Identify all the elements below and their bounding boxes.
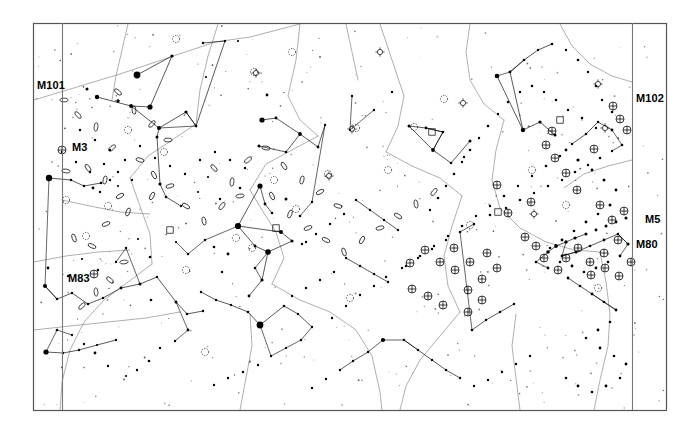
faint-star — [70, 97, 71, 98]
faint-star — [310, 66, 311, 67]
faint-star — [220, 94, 222, 96]
star — [383, 219, 385, 221]
globular-cluster-symbol — [623, 126, 631, 134]
star — [329, 223, 331, 225]
globular-cluster-symbol — [464, 286, 472, 294]
globular-cluster-symbol — [90, 270, 98, 278]
star — [46, 175, 52, 181]
star — [86, 88, 89, 91]
star — [43, 284, 47, 288]
faint-star — [579, 168, 581, 170]
star — [373, 109, 375, 111]
star — [513, 303, 515, 305]
star — [213, 384, 215, 386]
star — [469, 140, 472, 143]
star — [585, 221, 588, 224]
star — [509, 71, 512, 74]
faint-star — [544, 79, 545, 80]
star — [265, 249, 271, 255]
faint-star — [234, 374, 235, 375]
star — [92, 187, 95, 190]
star — [94, 352, 97, 355]
faint-star — [646, 269, 648, 271]
star — [373, 273, 375, 275]
faint-star — [438, 312, 439, 313]
faint-star — [424, 306, 425, 307]
star — [285, 347, 287, 349]
faint-star — [249, 248, 251, 250]
faint-star — [214, 253, 215, 254]
faint-star — [491, 66, 492, 67]
star — [535, 261, 538, 264]
star — [199, 159, 201, 161]
globular-cluster-symbol — [586, 258, 594, 266]
faint-star — [144, 357, 146, 359]
faint-star — [432, 119, 434, 121]
faint-star — [67, 339, 68, 340]
star — [81, 258, 83, 260]
star — [373, 285, 375, 287]
star — [621, 144, 624, 147]
faint-star — [355, 74, 356, 75]
star — [298, 132, 302, 136]
star — [239, 187, 242, 190]
star — [351, 95, 353, 97]
faint-star — [541, 66, 543, 68]
faint-star — [162, 256, 163, 257]
star — [100, 182, 103, 185]
faint-star — [459, 349, 460, 350]
faint-star — [529, 67, 531, 69]
faint-star — [199, 198, 200, 199]
faint-star — [539, 132, 540, 133]
faint-star — [358, 134, 359, 135]
globular-cluster-symbol — [424, 292, 432, 300]
faint-star — [597, 258, 599, 260]
faint-star — [319, 56, 321, 58]
faint-star — [123, 379, 125, 381]
faint-star — [387, 155, 388, 156]
faint-star — [379, 190, 381, 192]
faint-star — [634, 269, 635, 270]
star — [244, 167, 246, 169]
globular-cluster-symbol — [554, 266, 562, 274]
faint-star — [191, 380, 192, 381]
star — [147, 104, 152, 109]
star — [473, 385, 475, 387]
faint-star — [101, 260, 102, 261]
star — [97, 269, 99, 271]
star — [264, 203, 267, 206]
star — [79, 129, 81, 131]
faint-star — [662, 159, 663, 160]
star — [538, 120, 541, 123]
faint-star — [526, 386, 528, 388]
faint-star — [547, 347, 549, 349]
faint-star — [107, 299, 109, 301]
faint-star — [110, 264, 111, 265]
faint-star — [629, 86, 631, 88]
star — [150, 299, 153, 302]
faint-star — [474, 355, 476, 357]
star — [615, 221, 618, 224]
faint-star — [109, 251, 110, 252]
star — [487, 125, 490, 128]
faint-star — [471, 79, 473, 81]
star — [129, 104, 133, 108]
faint-star — [164, 403, 166, 405]
star — [519, 91, 521, 93]
star — [207, 176, 209, 178]
faint-star — [434, 308, 436, 310]
star — [170, 54, 173, 57]
star — [615, 309, 618, 312]
star — [585, 133, 588, 136]
star — [213, 246, 216, 249]
globular-cluster-symbol — [627, 258, 635, 266]
star — [579, 285, 582, 288]
star — [180, 205, 182, 207]
star — [595, 127, 597, 129]
star — [87, 303, 90, 306]
star — [445, 239, 447, 241]
star — [47, 267, 50, 270]
faint-star — [292, 90, 293, 91]
star — [533, 192, 535, 194]
faint-star — [493, 230, 495, 232]
